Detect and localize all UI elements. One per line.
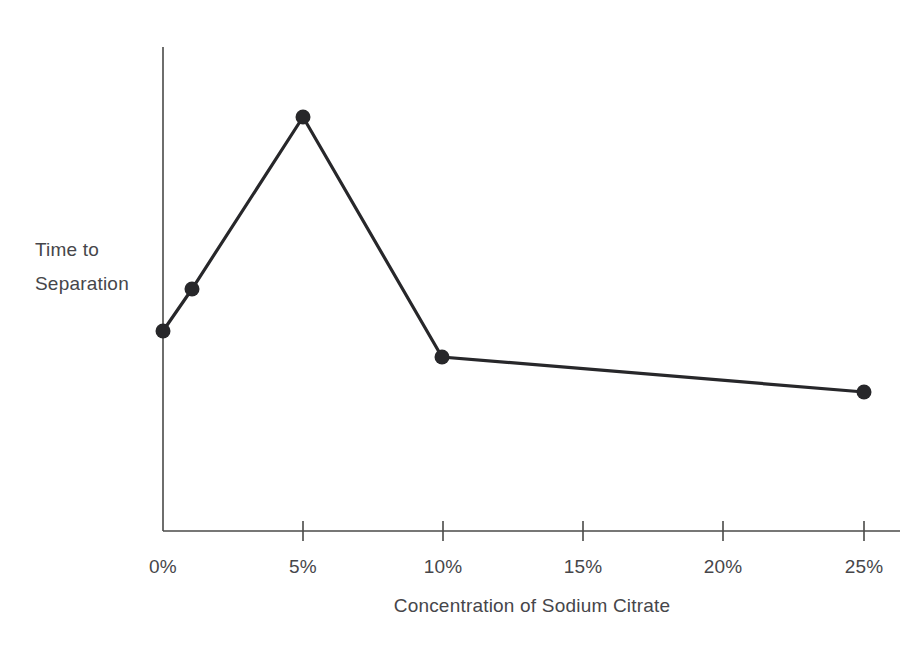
series-markers: [156, 110, 872, 400]
data-point-25pct: [857, 385, 872, 400]
chart-container: 0% 5% 10% 15% 20% 25% Concentration of S…: [0, 0, 915, 657]
x-axis-title: Concentration of Sodium Citrate: [394, 595, 671, 616]
y-axis-label-line-1: Time to: [35, 239, 99, 260]
x-tick-label-2: 10%: [424, 556, 463, 577]
y-axis-label-line-2: Separation: [35, 273, 129, 294]
x-tick-label-5: 25%: [845, 556, 884, 577]
line-chart: 0% 5% 10% 15% 20% 25% Concentration of S…: [0, 0, 915, 657]
x-tick-label-1: 5%: [289, 556, 317, 577]
x-axis-tick-labels: 0% 5% 10% 15% 20% 25%: [149, 556, 883, 577]
y-axis-label: Time to Separation: [35, 239, 129, 294]
data-point-1pct: [185, 282, 200, 297]
x-tick-label-4: 20%: [704, 556, 743, 577]
data-point-10pct: [435, 350, 450, 365]
x-tick-label-0: 0%: [149, 556, 177, 577]
x-tick-label-3: 15%: [564, 556, 603, 577]
data-point-5pct: [296, 110, 311, 125]
data-point-0pct: [156, 324, 171, 339]
series-line-time-to-separation: [163, 117, 864, 392]
